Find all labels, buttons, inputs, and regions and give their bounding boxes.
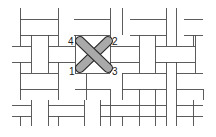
cross-stitch (80, 41, 108, 68)
corner-label-1: 1 (69, 66, 75, 77)
corner-label-2: 2 (112, 36, 118, 47)
corner-label-4: 4 (68, 36, 74, 47)
basket-weave-diagram: 1 2 3 4 (0, 0, 216, 137)
corner-label-3: 3 (112, 66, 118, 77)
